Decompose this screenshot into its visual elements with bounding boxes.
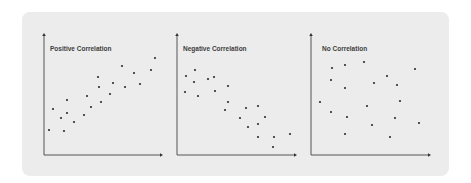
data-point: [373, 82, 375, 84]
data-point: [257, 105, 259, 107]
data-point: [239, 117, 241, 119]
data-point: [52, 108, 54, 110]
data-point: [60, 117, 62, 119]
y-axis-arrow-icon: [175, 33, 179, 36]
data-point: [257, 123, 259, 125]
data-point: [213, 76, 215, 78]
data-point: [224, 109, 226, 111]
data-point: [366, 105, 368, 107]
data-point: [245, 107, 247, 109]
data-point: [98, 86, 100, 88]
data-point: [346, 116, 348, 118]
data-point: [227, 101, 229, 103]
positive-correlation-chart: Positive Correlation: [42, 33, 163, 157]
data-point: [194, 69, 196, 71]
data-point: [124, 86, 126, 88]
data-point: [289, 133, 291, 135]
data-point: [73, 121, 75, 123]
data-point: [272, 146, 274, 148]
y-axis-arrow-icon: [309, 33, 313, 36]
data-point: [227, 85, 229, 87]
data-point: [193, 81, 195, 83]
data-point: [86, 95, 88, 97]
data-point: [197, 95, 199, 97]
data-point: [371, 124, 373, 126]
data-point: [389, 136, 391, 138]
data-point: [90, 106, 92, 108]
data-point: [112, 82, 114, 84]
data-point: [363, 61, 365, 63]
data-point: [264, 116, 266, 118]
chart-title: No Correlation: [322, 45, 367, 52]
x-axis-arrow-icon: [294, 153, 297, 157]
y-axis-arrow-icon: [42, 33, 46, 36]
data-point: [207, 78, 209, 80]
data-point: [185, 75, 187, 77]
no-correlation-chart: No Correlation: [309, 33, 431, 157]
data-point: [344, 64, 346, 66]
data-point: [109, 93, 111, 95]
data-point: [330, 79, 332, 81]
data-point: [83, 114, 85, 116]
chart-title: Positive Correlation: [50, 45, 111, 52]
data-point: [273, 136, 275, 138]
data-point: [121, 65, 123, 67]
data-point: [133, 72, 135, 74]
data-point: [150, 69, 152, 71]
scatter-charts: Positive Correlation Negative Correlatio…: [0, 0, 471, 183]
data-point: [63, 130, 65, 132]
x-axis-arrow-icon: [160, 153, 163, 157]
data-point: [414, 68, 416, 70]
data-point: [396, 84, 398, 86]
data-point: [344, 133, 346, 135]
data-point: [214, 90, 216, 92]
data-point: [48, 129, 50, 131]
data-point: [330, 111, 332, 113]
data-point: [331, 67, 333, 69]
x-axis-arrow-icon: [428, 153, 431, 157]
data-point: [66, 99, 68, 101]
data-point: [394, 117, 396, 119]
data-point: [154, 57, 156, 59]
data-point: [344, 87, 346, 89]
chart-title: Negative Correlation: [183, 45, 247, 53]
data-point: [247, 126, 249, 128]
data-point: [184, 91, 186, 93]
data-point: [399, 100, 401, 102]
data-point: [97, 76, 99, 78]
data-point: [139, 83, 141, 85]
data-point: [386, 75, 388, 77]
data-point: [100, 101, 102, 103]
data-point: [418, 122, 420, 124]
data-point: [66, 112, 68, 114]
negative-correlation-chart: Negative Correlation: [175, 33, 297, 157]
data-point: [319, 101, 321, 103]
data-point: [257, 136, 259, 138]
